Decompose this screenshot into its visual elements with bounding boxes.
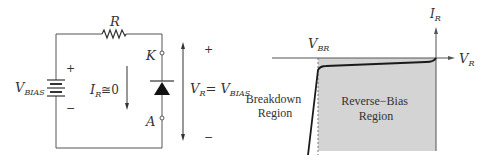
breakdown-line1: Breakdown bbox=[246, 92, 301, 106]
anode-label: A bbox=[145, 114, 155, 129]
vbr-label: VBR bbox=[308, 36, 329, 53]
source-label: VBIAS bbox=[15, 80, 45, 97]
voltage-label-sub: R bbox=[198, 89, 205, 98]
x-axis-arrow-icon bbox=[448, 56, 455, 60]
current-label: IR≅0 bbox=[89, 82, 119, 99]
resistor-label: R bbox=[109, 14, 120, 29]
reverse-line1: Reverse−Bias bbox=[341, 94, 408, 108]
y-axis-label: IR bbox=[429, 7, 441, 23]
current-arrow-icon bbox=[125, 66, 129, 110]
vbr-label-sub: BR bbox=[316, 44, 329, 53]
voltage-plus: + bbox=[204, 43, 213, 56]
diode-reverse-bias-diagram: R VBIAS + − IR≅0 K A VR= VBIAS + − IR VR… bbox=[0, 0, 485, 168]
cathode-label: K bbox=[145, 48, 157, 63]
diode-icon bbox=[150, 81, 174, 95]
cathode-terminal-icon bbox=[160, 51, 164, 55]
current-label-rest: ≅0 bbox=[101, 83, 119, 97]
voltage-minus: − bbox=[204, 131, 213, 144]
source-label-sub: BIAS bbox=[23, 88, 45, 97]
reverse-line2: Region bbox=[359, 109, 394, 123]
current-label-sub: R bbox=[94, 90, 101, 99]
y-axis-arrow-icon bbox=[434, 27, 438, 34]
resistor-icon bbox=[102, 30, 126, 38]
iv-graph bbox=[272, 27, 455, 155]
voltage-label: VR= VBIAS bbox=[190, 81, 251, 98]
source-minus: − bbox=[66, 102, 75, 115]
battery-icon bbox=[47, 80, 65, 96]
y-axis-label-sub: R bbox=[434, 14, 441, 23]
source-plus: + bbox=[66, 62, 75, 75]
breakdown-region-label: Breakdown Region bbox=[246, 92, 304, 120]
voltage-label-eq: = V bbox=[205, 81, 231, 96]
breakdown-line2: Region bbox=[258, 106, 293, 120]
x-axis-label: VR bbox=[459, 51, 474, 68]
voltage-arrow-icon bbox=[181, 42, 185, 141]
anode-terminal-icon bbox=[160, 116, 164, 120]
x-axis-label-sub: R bbox=[467, 59, 474, 68]
